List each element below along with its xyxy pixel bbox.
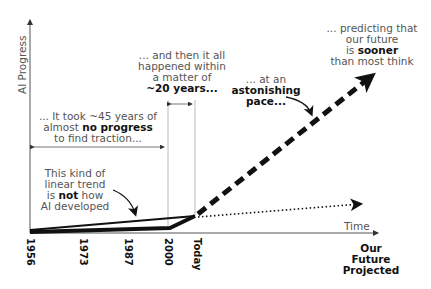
pace-line-3: pace... [246, 95, 286, 107]
tick-1987: 1987 [123, 238, 133, 266]
tick-1973: 1973 [78, 238, 88, 266]
x-axis-label: Time [344, 220, 370, 232]
future-line-3: Projected [341, 265, 401, 276]
annotation-linear: This kind of linear trend is not how AI … [36, 168, 114, 212]
tick-1956: 1956 [25, 238, 35, 266]
annotation-twenty-years: ... and then it all happened within a ma… [132, 50, 232, 94]
no-progress-line-3: to find traction... [32, 133, 164, 144]
twenty-years-bold: ~20 years... [146, 82, 218, 94]
tick-today: Today [192, 238, 202, 270]
annotation-pace: ... at an astonishing pace... [230, 74, 302, 107]
prediction-line-4: than most think [322, 56, 422, 67]
linear-line-4: AI developed [36, 201, 114, 212]
annotation-prediction: ... predicting that our future is sooner… [322, 23, 422, 67]
annotation-no-progress: ... It took ~45 years of almost no progr… [32, 111, 164, 144]
y-axis-label: AI Progress [16, 36, 28, 94]
linear-pointer-arrow [113, 190, 135, 213]
tick-2000: 2000 [163, 238, 173, 266]
future-projected-label: Our Future Projected [341, 243, 401, 276]
linear-projection-line [198, 204, 360, 217]
